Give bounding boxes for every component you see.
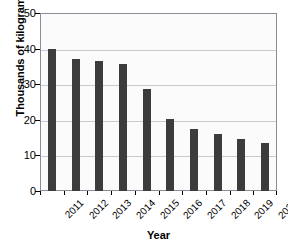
y-axis-tick-mark [35,49,40,50]
bar [237,139,245,191]
y-axis-tick-label: 10 [18,150,36,161]
bars-layer [40,13,277,191]
x-axis-tick-mark [206,191,207,195]
x-axis-tick-label: 2012 [87,198,110,221]
x-axis-tick-mark [276,191,277,195]
y-axis-tick-mark [35,120,40,121]
x-axis-tick-mark [87,191,88,195]
x-axis-tick-label: 2020 [277,198,288,221]
x-axis-tick-label: 2016 [182,198,205,221]
y-axis-tick-label: 40 [18,44,36,55]
bar [143,89,151,191]
x-axis-tick-label: 2018 [229,198,252,221]
bar [190,129,198,191]
y-axis-tick-mark [35,191,40,192]
y-axis-tick-mark [35,84,40,85]
x-axis-tick-label: 2019 [253,198,276,221]
bar [166,119,174,191]
bar [95,61,103,191]
y-axis-tick-label: 20 [18,115,36,126]
y-axis-tick-mark [35,13,40,14]
bar [48,49,56,191]
bar [261,143,269,191]
x-axis-tick-mark [111,191,112,195]
y-axis-tick-mark [35,155,40,156]
x-axis-tick-mark [159,191,160,195]
bar-chart: Thousands of kilograms 01020304050 20112… [0,0,288,247]
y-axis-tick-label: 30 [18,79,36,90]
x-axis-title: Year [40,229,277,241]
bar [72,59,80,191]
x-axis-tick-label: 2014 [134,198,157,221]
x-axis-tick-mark [253,191,254,195]
x-axis-tick-mark [135,191,136,195]
x-axis-tick-label: 2017 [206,198,229,221]
x-axis-tick-mark [40,191,41,195]
x-axis-tick-label: 2013 [111,198,134,221]
x-axis-tick-mark [230,191,231,195]
x-axis-tick-label: 2015 [158,198,181,221]
x-axis-tick-mark [64,191,65,195]
y-axis-tick-label: 50 [18,8,36,19]
x-axis-tick-mark [182,191,183,195]
bar [119,64,127,191]
y-axis-tick-label: 0 [18,186,36,197]
y-axis-tick-labels: 01020304050 [16,0,36,247]
bar [214,134,222,191]
x-axis-tick-label: 2011 [63,198,85,220]
x-axis-tick-labels: 2011201220132014201520162017201820192020 [40,196,277,228]
